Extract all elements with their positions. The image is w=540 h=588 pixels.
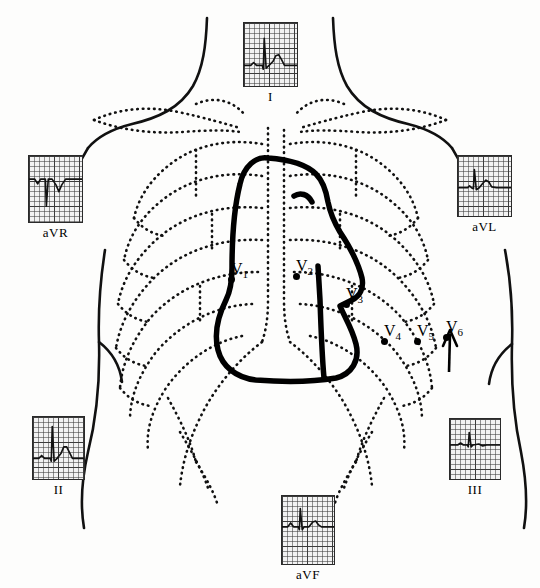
- ecg-box-II: [32, 416, 85, 480]
- chest-lead-v3-electrode: [343, 301, 350, 308]
- ecg-panel-I[interactable]: I: [243, 22, 298, 105]
- ecg-panel-aVR[interactable]: aVR: [28, 155, 83, 241]
- ecg-trace-aVL: [458, 156, 511, 216]
- chest-lead-v4-electrode: [381, 338, 388, 345]
- ecg-placement-figure: .body{fill:none;stroke:#111;stroke-width…: [0, 0, 540, 588]
- ecg-label-I: I: [243, 89, 298, 105]
- ecg-trace-I: [244, 23, 297, 86]
- ecg-label-III: III: [449, 482, 501, 498]
- chest-lead-v2-electrode: [293, 273, 300, 280]
- ecg-trace-aVF: [282, 496, 334, 563]
- ecg-label-aVL: aVL: [457, 219, 512, 235]
- chest-lead-v6-electrode: [443, 334, 450, 341]
- ecg-trace-II: [33, 417, 84, 479]
- ecg-label-aVF: aVF: [281, 567, 335, 583]
- ecg-panel-II[interactable]: II: [32, 416, 85, 498]
- chest-lead-v1-electrode: [228, 276, 235, 283]
- ecg-box-aVF: [281, 495, 335, 565]
- ecg-box-I: [243, 22, 298, 87]
- ecg-box-aVL: [457, 155, 512, 217]
- ecg-label-aVR: aVR: [28, 225, 83, 241]
- ecg-box-aVR: [28, 155, 83, 223]
- ecg-trace-III: [450, 419, 500, 479]
- chest-lead-v5-electrode: [414, 338, 421, 345]
- ecg-box-III: [449, 418, 501, 480]
- ecg-panel-aVL[interactable]: aVL: [457, 155, 512, 235]
- ecg-panel-III[interactable]: III: [449, 418, 501, 498]
- ecg-panel-aVF[interactable]: aVF: [281, 495, 335, 583]
- ecg-trace-aVR: [29, 156, 82, 222]
- ecg-label-II: II: [32, 482, 85, 498]
